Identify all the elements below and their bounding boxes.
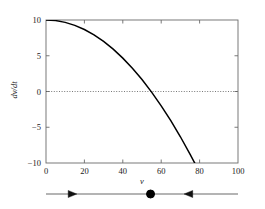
svg-text:0: 0 [44, 166, 48, 176]
svg-text:100: 100 [232, 166, 245, 176]
phase-arrow-right [68, 190, 77, 197]
svg-text:60: 60 [157, 166, 166, 176]
figure-container: dv/dt v v 020406080100 −10−50510 [0, 0, 265, 209]
x-tick-labels: 020406080100 [44, 166, 245, 176]
phase-fixed-point [147, 190, 155, 198]
svg-text:0: 0 [37, 87, 41, 97]
svg-text:80: 80 [195, 166, 204, 176]
dvdt-curve [46, 20, 196, 165]
phase-line [46, 190, 238, 198]
svg-text:−10: −10 [28, 158, 41, 168]
svg-text:−5: −5 [32, 122, 41, 132]
svg-text:40: 40 [119, 166, 128, 176]
svg-text:20: 20 [80, 166, 89, 176]
y-tick-labels: −10−50510 [28, 15, 41, 168]
phase-arrow-left [184, 190, 193, 197]
svg-text:5: 5 [37, 51, 41, 61]
svg-text:10: 10 [33, 15, 42, 25]
plot-svg: 020406080100 −10−50510 [0, 0, 265, 209]
